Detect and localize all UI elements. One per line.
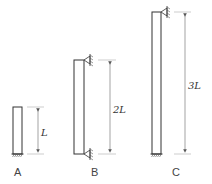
column-label-c: C <box>172 166 180 178</box>
column-c <box>151 6 192 157</box>
pin-support-icon <box>84 54 93 66</box>
pin-support-icon <box>161 6 170 18</box>
column-a <box>12 107 45 157</box>
column-b <box>74 54 116 160</box>
column-label-b: B <box>91 166 98 178</box>
length-label-a: L <box>41 127 48 138</box>
columns-diagram <box>0 0 212 184</box>
fixed-support-icon <box>12 154 24 157</box>
length-label-b: 2L <box>113 104 126 115</box>
length-label-c: 3L <box>188 80 201 91</box>
pin-support-icon <box>84 148 93 160</box>
column-label-a: A <box>14 166 21 178</box>
fixed-support-icon <box>151 154 163 157</box>
